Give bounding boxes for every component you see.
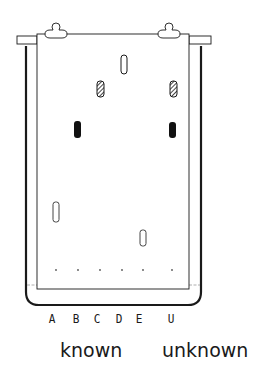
spot-E-outline [140, 230, 146, 246]
lane-label-A: A [45, 311, 59, 326]
lane-label-U: U [164, 311, 178, 326]
lane-label-C: C [90, 311, 104, 326]
origin-dot-D [121, 269, 123, 271]
origin-dot-B [77, 269, 79, 271]
spot-D-outline [121, 55, 127, 74]
spot-B-solid [74, 121, 81, 138]
spot-C-hatched [97, 81, 104, 97]
chromatography-diagram [0, 0, 262, 371]
lane-label-B: B [69, 311, 83, 326]
spot-U-hatched [170, 81, 177, 97]
origin-dot-A [55, 269, 57, 271]
group-label-known: known [60, 339, 122, 361]
spot-U-solid [169, 122, 176, 138]
origin-dot-C [99, 269, 101, 271]
origin-dot-U [171, 269, 173, 271]
clip-right-icon [158, 23, 180, 38]
origin-dot-E [142, 269, 144, 271]
group-label-unknown: unknown [162, 339, 248, 361]
lane-label-E: E [132, 311, 146, 326]
spot-A-outline [53, 202, 59, 222]
lane-label-D: D [112, 311, 126, 326]
clip-left-icon [45, 23, 67, 38]
chromatography-paper [37, 34, 189, 289]
